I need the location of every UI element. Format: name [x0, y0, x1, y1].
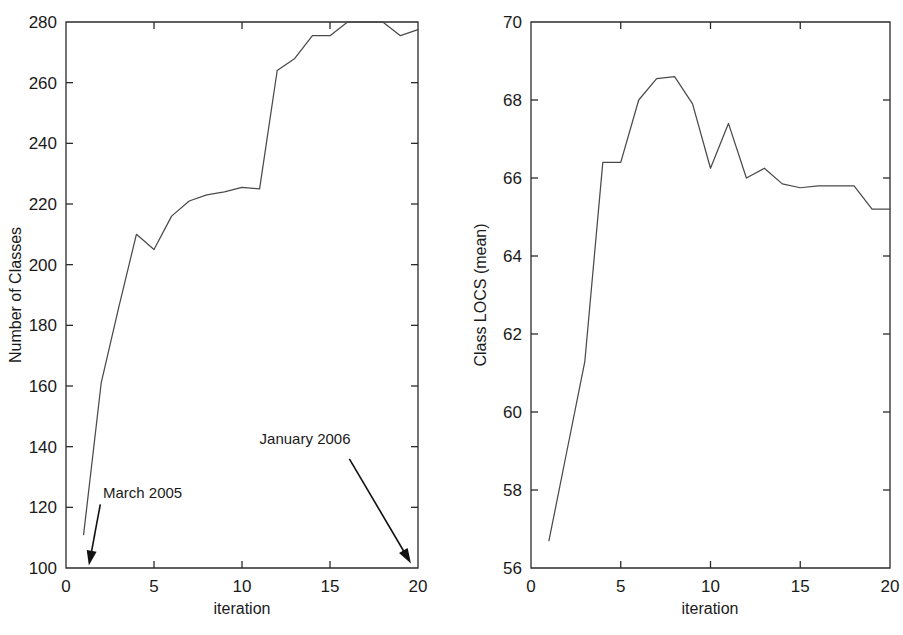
- right-x-axis-title: iteration: [682, 600, 739, 617]
- left-x-tick-labels: 05101520: [61, 577, 427, 596]
- y-tick-label: 120: [29, 498, 57, 517]
- right-y-tick-labels: 5658606264666870: [503, 13, 522, 578]
- chart-panel-class-locs-mean: 5658606264666870 05101520 iteration Clas…: [452, 0, 903, 635]
- x-tick-label: 20: [881, 577, 900, 596]
- y-tick-label: 140: [29, 438, 57, 457]
- y-tick-label: 160: [29, 377, 57, 396]
- y-tick-label: 100: [29, 559, 57, 578]
- y-tick-label: 70: [503, 13, 522, 32]
- right-plot-frame: [531, 22, 890, 568]
- y-tick-label: 240: [29, 134, 57, 153]
- annotation-arrow-head: [87, 550, 97, 566]
- x-tick-label: 10: [233, 577, 252, 596]
- x-tick-label: 0: [61, 577, 70, 596]
- figure-dual-line-charts: 100120140160180200220240260280 05101520 …: [0, 0, 903, 635]
- annotation-label: January 2006: [260, 430, 351, 447]
- y-tick-label: 66: [503, 169, 522, 188]
- right-tick-marks: [531, 22, 890, 568]
- right-y-axis-title: Class LOCS (mean): [472, 223, 489, 366]
- y-tick-label: 56: [503, 559, 522, 578]
- left-data-series-line: [84, 22, 418, 535]
- chart-panel-number-of-classes: 100120140160180200220240260280 05101520 …: [0, 0, 451, 635]
- y-tick-label: 62: [503, 325, 522, 344]
- x-tick-label: 10: [701, 577, 720, 596]
- left-annotations: March 2005January 2006: [87, 430, 411, 566]
- annotation-label: March 2005: [103, 484, 182, 501]
- x-tick-label: 15: [791, 577, 810, 596]
- annotation-arrow-shaft: [91, 504, 100, 552]
- right-data-series-line: [549, 77, 890, 541]
- left-chart-svg: 100120140160180200220240260280 05101520 …: [0, 0, 451, 635]
- right-chart-svg: 5658606264666870 05101520 iteration Clas…: [452, 0, 903, 635]
- y-tick-label: 180: [29, 316, 57, 335]
- x-tick-label: 0: [526, 577, 535, 596]
- y-tick-label: 200: [29, 256, 57, 275]
- right-x-tick-labels: 05101520: [526, 577, 899, 596]
- left-x-axis-title: iteration: [214, 600, 271, 617]
- y-tick-label: 68: [503, 91, 522, 110]
- left-y-tick-labels: 100120140160180200220240260280: [29, 13, 57, 578]
- x-tick-label: 15: [321, 577, 340, 596]
- left-y-axis-title: Number of Classes: [7, 227, 24, 363]
- y-tick-label: 260: [29, 74, 57, 93]
- y-tick-label: 60: [503, 403, 522, 422]
- y-tick-label: 64: [503, 247, 522, 266]
- annotation-arrow-head: [399, 548, 411, 563]
- y-tick-label: 280: [29, 13, 57, 32]
- y-tick-label: 220: [29, 195, 57, 214]
- x-tick-label: 5: [616, 577, 625, 596]
- annotation-arrow-shaft: [349, 459, 404, 552]
- x-tick-label: 5: [149, 577, 158, 596]
- y-tick-label: 58: [503, 481, 522, 500]
- x-tick-label: 20: [409, 577, 428, 596]
